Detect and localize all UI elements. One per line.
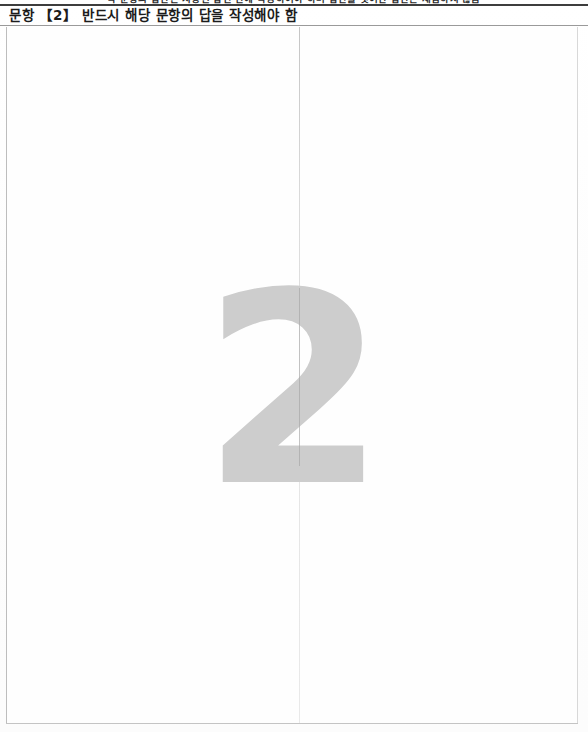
answer-box-left-border <box>6 27 7 724</box>
question-header-label: 문항 【2】 반드시 해당 문항의 답을 작성해야 함 <box>9 7 298 24</box>
header-bottom-rule <box>0 25 588 26</box>
question-header-row: 문항 【2】 반드시 해당 문항의 답을 작성해야 함 <box>0 6 588 25</box>
scan-fold-crease-line <box>299 27 300 723</box>
answer-box-right-border <box>577 27 578 724</box>
answer-box-bottom-border <box>6 723 578 724</box>
answer-writing-area[interactable] <box>6 27 578 723</box>
scanned-answer-sheet-page: 각 문항의 답안은 지정된 답란 안에 작성하여야 하며 답란을 벗어난 답안은… <box>0 0 588 732</box>
